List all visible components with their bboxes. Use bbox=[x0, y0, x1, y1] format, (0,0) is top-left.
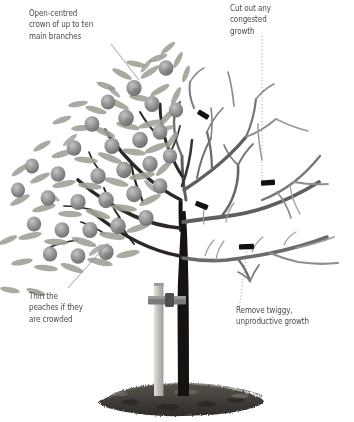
tree-illustration bbox=[0, 0, 354, 422]
cut-mark bbox=[239, 244, 254, 250]
cut-marks-group bbox=[195, 109, 275, 249]
callout-thin-peaches: Thin the peaches if they are crowded bbox=[29, 291, 131, 325]
bare-canopy-right bbox=[174, 68, 338, 281]
callout-cut-congested-growth: Cut out any congested growth bbox=[230, 3, 304, 37]
cut-mark bbox=[195, 201, 209, 211]
callout-open-centred-crown: Open-centred crown of up to ten main bra… bbox=[29, 8, 131, 42]
callout-remove-twiggy-growth: Remove twiggy, unproductive growth bbox=[236, 305, 348, 328]
leafy-canopy-left bbox=[0, 40, 192, 298]
pruning-diagram-figure: Open-centred crown of up to ten main bra… bbox=[0, 0, 354, 422]
cut-mark bbox=[197, 109, 210, 120]
cut-mark bbox=[261, 180, 275, 186]
